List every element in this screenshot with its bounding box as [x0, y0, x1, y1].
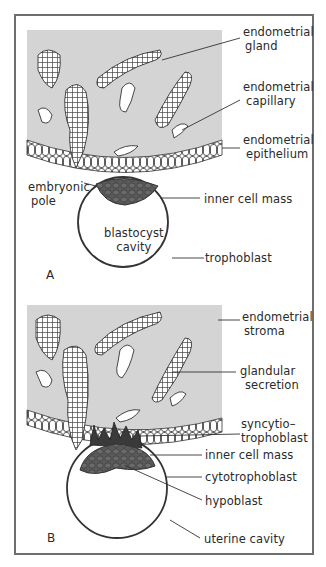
label-glandular-secretion: glandular secretion: [240, 364, 299, 392]
label-inner-cell-mass-a: inner cell mass: [204, 192, 292, 206]
label-endometrial-capillary: endometrial capillary: [243, 80, 314, 108]
label-blastocyst-cavity: blastocyst cavity: [104, 226, 164, 254]
panel-letter-b: B: [47, 531, 55, 545]
label-embryonic-pole: embryonic pole: [28, 180, 90, 208]
label-endometrial-stroma: endometrial stroma: [242, 310, 313, 338]
label-syncytiotrophoblast: syncytio– trophoblast: [241, 417, 308, 445]
label-inner-cell-mass-b: inner cell mass: [205, 448, 293, 462]
label-trophoblast: trophoblast: [205, 251, 272, 265]
label-endometrial-gland: endometrial gland: [243, 25, 314, 53]
panel-letter-a: A: [46, 268, 54, 282]
label-cytotrophoblast: cytotrophoblast: [205, 470, 297, 484]
label-hypoblast: hypoblast: [205, 494, 262, 508]
label-endometrial-epithelium: endometrial epithelium: [243, 133, 314, 161]
label-uterine-cavity: uterine cavity: [204, 532, 285, 546]
